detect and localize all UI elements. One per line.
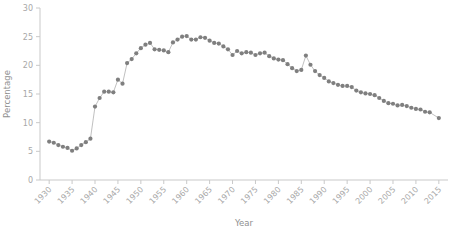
- data-point: [139, 46, 143, 50]
- x-tick-label: 2000: [354, 185, 375, 206]
- y-tick-label: 25: [23, 33, 33, 42]
- data-point: [166, 50, 170, 54]
- x-tick-label: 2010: [400, 185, 421, 206]
- data-point: [153, 47, 157, 51]
- x-tick-label: 2015: [422, 185, 443, 206]
- x-tick-label: 1980: [262, 185, 283, 206]
- data-point: [217, 41, 221, 45]
- data-point: [240, 51, 244, 55]
- x-tick-label: 1940: [79, 185, 100, 206]
- data-point: [98, 96, 102, 100]
- data-point: [230, 53, 234, 57]
- data-point: [120, 82, 124, 86]
- data-point: [180, 35, 184, 39]
- data-point: [258, 51, 262, 55]
- y-tick-label: 30: [23, 4, 33, 13]
- data-point: [203, 36, 207, 40]
- data-point: [340, 84, 344, 88]
- data-point: [263, 51, 267, 55]
- x-tick-label: 1995: [331, 185, 352, 206]
- data-point: [143, 43, 147, 47]
- data-point: [327, 79, 331, 83]
- data-point: [304, 53, 308, 57]
- data-point: [405, 104, 409, 108]
- x-tick-label: 1930: [33, 185, 54, 206]
- x-tick-label: 2005: [377, 185, 398, 206]
- data-point: [175, 37, 179, 41]
- data-point: [386, 101, 390, 105]
- data-point: [285, 62, 289, 66]
- chart-container: 0510152025301930193519401945195019551960…: [0, 0, 458, 232]
- x-tick-label: 1985: [285, 185, 306, 206]
- data-point: [93, 105, 97, 109]
- data-point: [52, 141, 56, 145]
- x-tick-label: 1950: [125, 185, 146, 206]
- data-point: [235, 49, 239, 53]
- data-point: [354, 88, 358, 92]
- data-point: [418, 107, 422, 111]
- data-point: [65, 146, 69, 150]
- data-point: [363, 91, 367, 95]
- data-point: [281, 58, 285, 62]
- y-tick-label: 20: [23, 61, 33, 70]
- data-point: [75, 146, 79, 150]
- data-point: [368, 92, 372, 96]
- x-tick-label: 1955: [147, 185, 168, 206]
- data-point: [331, 81, 335, 85]
- data-point: [423, 110, 427, 114]
- data-point: [395, 103, 399, 107]
- data-point: [148, 41, 152, 45]
- data-point: [212, 41, 216, 45]
- x-axis-title: Year: [234, 218, 254, 228]
- data-point: [244, 50, 248, 54]
- x-tick-label: 1960: [170, 185, 191, 206]
- data-point: [208, 39, 212, 43]
- data-point: [111, 90, 115, 94]
- data-point: [382, 99, 386, 103]
- data-point: [221, 44, 225, 48]
- data-point: [400, 103, 404, 107]
- data-point: [350, 85, 354, 89]
- y-axis-title: Percentage: [2, 70, 12, 118]
- data-point: [377, 96, 381, 100]
- data-point: [194, 37, 198, 41]
- data-point: [47, 139, 51, 143]
- data-point: [189, 37, 193, 41]
- y-tick-label: 0: [28, 176, 33, 185]
- data-point: [299, 68, 303, 72]
- data-point: [185, 34, 189, 38]
- data-point: [290, 66, 294, 70]
- data-point: [409, 106, 413, 110]
- data-point: [162, 48, 166, 52]
- data-point: [102, 90, 106, 94]
- data-point: [267, 54, 271, 58]
- data-point: [70, 149, 74, 153]
- x-tick-label: 1970: [216, 185, 237, 206]
- data-point: [313, 69, 317, 73]
- x-tick-label: 1935: [56, 185, 77, 206]
- x-tick-label: 1975: [239, 185, 260, 206]
- data-point: [318, 73, 322, 77]
- x-tick-label: 1965: [193, 185, 214, 206]
- y-tick-label: 15: [23, 90, 33, 99]
- data-point: [276, 58, 280, 62]
- data-point: [107, 90, 111, 94]
- data-point: [253, 53, 257, 57]
- data-point: [336, 83, 340, 87]
- data-point: [61, 145, 65, 149]
- data-point: [391, 102, 395, 106]
- data-point: [88, 137, 92, 141]
- data-point: [130, 57, 134, 61]
- data-point: [226, 47, 230, 51]
- data-point: [437, 116, 441, 120]
- data-point: [116, 78, 120, 82]
- data-point: [249, 51, 253, 55]
- data-point: [157, 48, 161, 52]
- data-point: [428, 110, 432, 114]
- x-tick-label: 1990: [308, 185, 329, 206]
- data-point: [84, 140, 88, 144]
- data-point: [373, 93, 377, 97]
- data-point: [134, 51, 138, 55]
- data-point: [171, 40, 175, 44]
- data-point: [414, 107, 418, 111]
